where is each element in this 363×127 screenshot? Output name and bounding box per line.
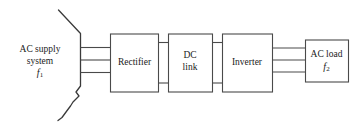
label-ac-load: AC load f2 — [304, 49, 349, 75]
acload-frequency-index: 2 — [326, 65, 330, 73]
dclink-label-line1: DC — [167, 50, 213, 62]
supply-frequency-label: f1 — [2, 67, 78, 82]
label-rectifier: Rectifier — [110, 57, 159, 69]
wires-supply-to-rectifier — [81, 48, 111, 73]
dclink-label-line2: link — [167, 62, 213, 74]
acload-label-line1: AC load — [304, 49, 349, 61]
supply-label-line2: system — [2, 56, 78, 68]
label-dc-link: DC link — [167, 50, 213, 73]
block-diagram: AC supply system f1 Rectifier DC link In… — [0, 0, 363, 127]
supply-frequency-index: 1 — [40, 71, 44, 79]
supply-label-line1: AC supply — [2, 44, 78, 56]
label-inverter: Inverter — [221, 57, 273, 69]
acload-frequency-label: f2 — [304, 61, 349, 76]
rectifier-label-line1: Rectifier — [110, 57, 159, 69]
inverter-label-line1: Inverter — [221, 57, 273, 69]
wires-inverter-to-acload — [273, 48, 306, 72]
label-ac-supply-system: AC supply system f1 — [2, 44, 78, 82]
